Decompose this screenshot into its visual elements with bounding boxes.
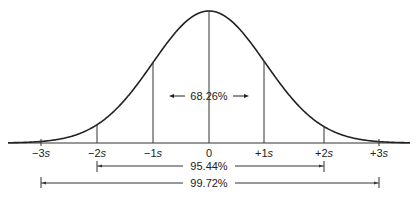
arrow-left-icon: [42, 182, 46, 185]
interval-68: 68.26%: [169, 90, 249, 102]
label-plus-1s: +1s: [255, 147, 274, 159]
label-minus-3s: −3s: [32, 147, 51, 159]
label-plus-2s: +2s: [315, 147, 334, 159]
label-zero: 0: [206, 147, 212, 159]
arrow-right-icon: [319, 165, 323, 168]
interval-95: 95.44%: [97, 160, 324, 172]
interval-99: 99.72%: [41, 177, 379, 189]
arrow-right-icon: [244, 94, 249, 98]
interval-99-label: 99.72%: [190, 177, 228, 189]
normal-distribution-diagram: −3s −2s −1s 0 +1s +2s +3s 68.26% 95.44% …: [0, 0, 418, 199]
axis-labels: −3s −2s −1s 0 +1s +2s +3s: [32, 147, 389, 159]
label-minus-1s: −1s: [144, 147, 163, 159]
arrow-left-icon: [169, 94, 174, 98]
label-minus-2s: −2s: [88, 147, 107, 159]
arrow-left-icon: [98, 165, 102, 168]
interval-95-label: 95.44%: [190, 160, 228, 172]
sigma-lines: [97, 11, 324, 143]
arrow-right-icon: [374, 182, 378, 185]
interval-68-label: 68.26%: [190, 90, 228, 102]
label-plus-3s: +3s: [370, 147, 389, 159]
